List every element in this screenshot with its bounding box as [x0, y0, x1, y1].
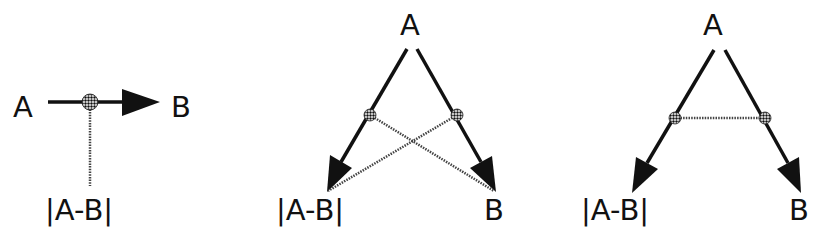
- junction-node: [82, 94, 98, 110]
- junction-node: [451, 109, 463, 121]
- junction-node: [364, 109, 376, 121]
- arrow-shaft-left: [647, 50, 714, 163]
- arrowhead-icon: [327, 155, 352, 192]
- panel-left: A B |A-B|: [13, 89, 191, 227]
- figure-caption-cropped: [18, 222, 798, 234]
- junction-node: [759, 112, 771, 124]
- label-b: B: [171, 90, 191, 124]
- label-a: A: [13, 90, 33, 124]
- junction-node: [669, 112, 681, 124]
- arrowhead-icon: [122, 89, 160, 116]
- label-a: A: [703, 8, 723, 42]
- diagram-canvas: A B |A-B| A |A-B| B A |A-B|: [0, 0, 817, 234]
- arrow-shaft-right: [417, 49, 481, 162]
- arrowhead-icon: [470, 156, 496, 192]
- arrow-shaft-right: [725, 50, 788, 163]
- arrowhead-icon: [632, 157, 658, 193]
- panel-middle: A |A-B| B: [276, 8, 504, 227]
- label-a: A: [400, 8, 420, 42]
- arrow-shaft-left: [341, 49, 407, 162]
- panel-right: A |A-B| B: [581, 8, 809, 227]
